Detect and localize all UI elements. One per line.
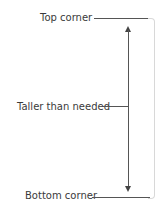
top-leader-line — [94, 18, 150, 19]
arrow-shaft — [128, 30, 129, 187]
top-corner-label: Top corner — [40, 12, 92, 24]
container-edge-bracket — [148, 18, 155, 199]
bottom-corner-label: Bottom corner — [25, 190, 97, 202]
bottom-leader-line — [92, 197, 150, 198]
arrow-down-icon — [125, 186, 131, 192]
taller-than-needed-label: Taller than needed — [17, 101, 110, 113]
middle-leader-line — [103, 106, 128, 107]
